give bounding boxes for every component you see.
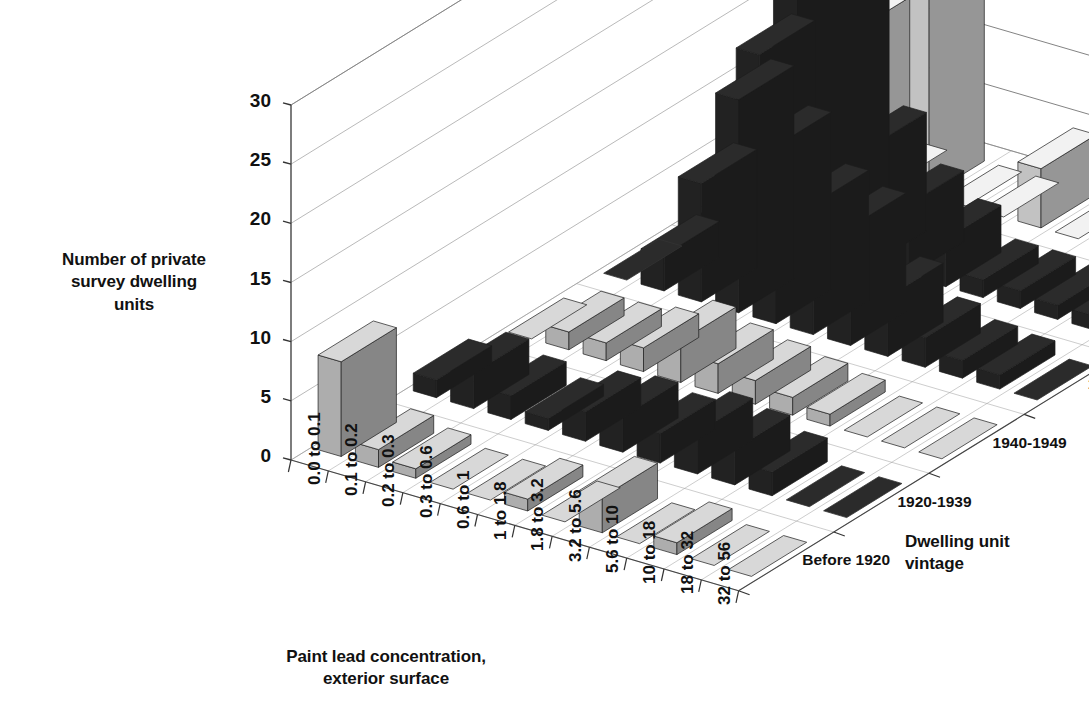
x-axis-tick-label: 0.2 to 0.3 <box>379 434 399 507</box>
x-axis-tick-label: 0.1 to 0.2 <box>342 424 362 497</box>
z-axis-tick-label: Before 1920 <box>802 551 890 569</box>
x-axis-tick-label: 5.6 to 10 <box>603 505 623 573</box>
x-axis-tick-label: 1 to 1.8 <box>491 481 511 540</box>
x-axis-tick-label: 10 to 18 <box>640 520 660 583</box>
y-axis-tick-label: 10 <box>225 327 271 349</box>
chart-container: Number of private survey dwelling units … <box>0 0 1089 723</box>
x-axis-tick-label: 3.2 to 5.6 <box>566 489 586 562</box>
y-axis-tick-label: 30 <box>225 90 271 112</box>
x-axis-tick-label: 0.0 to 0.1 <box>305 413 325 486</box>
x-axis-tick-label: 32 to 56 <box>715 542 735 605</box>
y-axis-tick-label: 5 <box>225 386 271 408</box>
bar <box>1018 128 1089 228</box>
y-axis-tick-label: 20 <box>225 208 271 230</box>
z-axis-tick-label: 1920-1939 <box>897 493 971 511</box>
x-axis-tick-label: 1.8 to 3.2 <box>528 478 548 551</box>
y-axis-tick-label: 15 <box>225 268 271 290</box>
y-axis-tick-label: 0 <box>225 445 271 467</box>
x-axis-tick-label: 18 to 32 <box>678 531 698 594</box>
y-axis-tick-label: 25 <box>225 149 271 171</box>
z-axis-tick-label: 1940-1949 <box>993 434 1067 452</box>
chart-plot-area <box>0 0 1089 723</box>
x-axis-tick-label: 0.6 to 1 <box>454 470 474 529</box>
x-axis-tick-label: 0.3 to 0.6 <box>417 445 437 518</box>
